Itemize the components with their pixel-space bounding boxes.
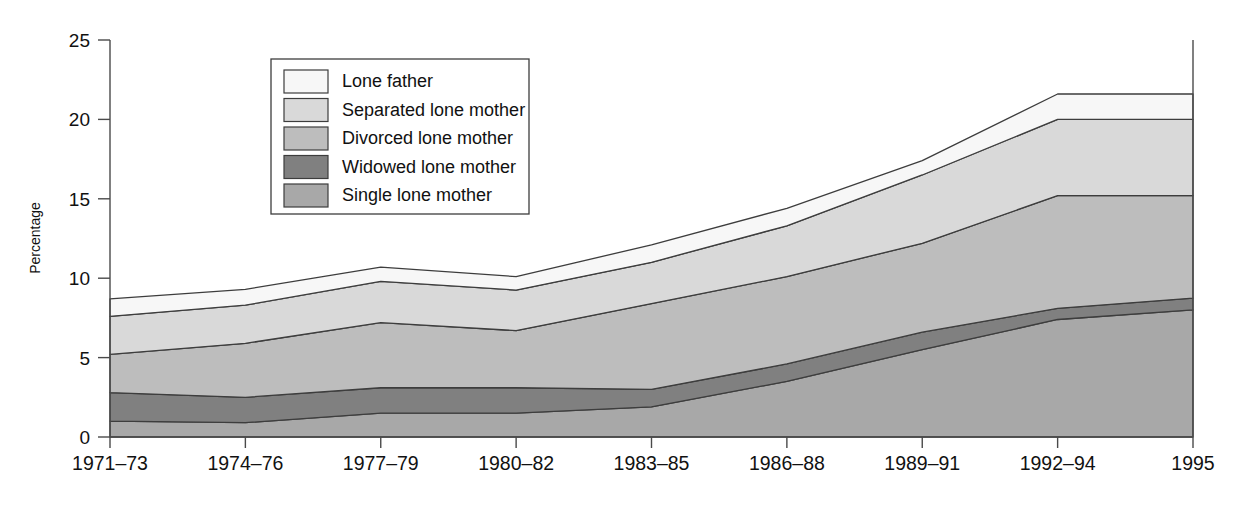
legend-label: Separated lone mother [342,100,525,120]
x-tick-label: 1977–79 [343,452,419,474]
y-axis-title: Percentage [27,202,43,274]
y-tick-label: 25 [69,30,90,51]
legend-swatch [284,156,328,179]
x-tick-label: 1992–94 [1020,452,1096,474]
legend-swatch [284,127,328,150]
y-tick-label: 10 [69,268,90,289]
legend-swatch [284,70,328,93]
x-tick-label: 1983–85 [614,452,690,474]
legend-label: Lone father [342,71,433,91]
x-tick-label: 1989–91 [884,452,960,474]
x-tick-label: 1971–73 [72,452,148,474]
legend-label: Single lone mother [342,185,492,205]
x-axis-ticks: 1971–731974–761977–791980–821983–851986–… [72,437,1215,474]
x-tick-label: 1980–82 [478,452,554,474]
legend-label: Widowed lone mother [342,157,516,177]
x-tick-label: 1986–88 [749,452,825,474]
y-tick-label: 0 [79,427,90,448]
chart-canvas: 0510152025 1971–731974–761977–791980–821… [0,0,1243,515]
y-tick-label: 20 [69,109,90,130]
x-tick-label: 1995 [1171,452,1215,474]
y-axis-ticks: 0510152025 [69,30,110,448]
legend-swatch [284,184,328,207]
legend-label: Divorced lone mother [342,128,513,148]
legend-swatch [284,99,328,122]
y-tick-label: 5 [79,348,90,369]
stacked-area-chart: 0510152025 1971–731974–761977–791980–821… [0,0,1243,515]
chart-legend: Lone fatherSeparated lone motherDivorced… [271,59,529,214]
y-tick-label: 15 [69,189,90,210]
x-tick-label: 1974–76 [207,452,283,474]
